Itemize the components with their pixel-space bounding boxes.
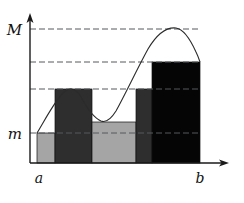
bars-group	[37, 62, 200, 163]
label-lower-bound: m	[8, 125, 22, 143]
bar-upper-3	[136, 89, 152, 163]
bar-lower-3	[92, 122, 136, 163]
bar-lower-1	[37, 133, 55, 163]
label-right-endpoint: b	[196, 170, 205, 186]
bar-upper-2	[55, 89, 92, 163]
label-left-endpoint: a	[35, 170, 43, 186]
bar-upper-4	[152, 62, 200, 163]
label-upper-bound: M	[6, 21, 23, 39]
riemann-sum-figure: M m a b	[0, 0, 244, 203]
figure-canvas: M m a b	[0, 0, 244, 203]
